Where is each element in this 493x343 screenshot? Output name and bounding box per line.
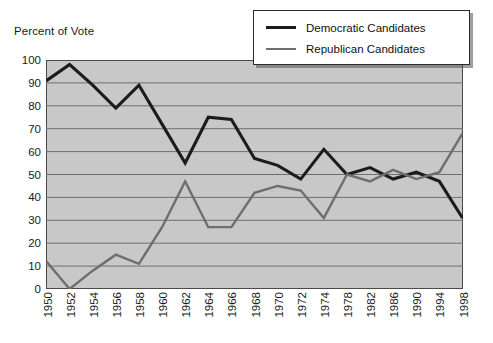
y-tick-label: 30 xyxy=(28,214,41,226)
legend-label-democratic: Democratic Candidates xyxy=(306,22,426,34)
y-tick-label: 100 xyxy=(22,54,41,66)
chart-container: Percent of Vote 0102030405060708090100 1… xyxy=(0,0,493,343)
series-line-democratic xyxy=(47,65,463,218)
x-tick-label: 1958 xyxy=(134,292,146,318)
legend-item-republican: Republican Candidates xyxy=(254,38,469,59)
y-tick-label: 50 xyxy=(28,169,41,181)
x-tick-label: 1978 xyxy=(342,292,354,318)
x-tick-label: 1956 xyxy=(111,292,123,318)
y-tick-label: 20 xyxy=(28,237,41,249)
x-tick-label: 1966 xyxy=(226,292,238,318)
x-tick-label: 1990 xyxy=(411,292,423,318)
legend-label-republican: Republican Candidates xyxy=(306,43,425,55)
y-tick-label: 10 xyxy=(28,260,41,272)
y-axis-title: Percent of Vote xyxy=(14,25,94,37)
x-axis-tick-labels: 1950195219541956195819601962196419661968… xyxy=(46,292,463,342)
x-tick-label: 1968 xyxy=(250,292,262,318)
x-tick-label: 1950 xyxy=(42,292,54,318)
x-tick-label: 1964 xyxy=(203,292,215,318)
plot-area xyxy=(46,60,463,289)
x-tick-label: 1982 xyxy=(365,292,377,318)
x-tick-label: 1994 xyxy=(434,292,446,318)
x-tick-label: 1952 xyxy=(65,292,77,318)
x-tick-label: 1986 xyxy=(388,292,400,318)
chart-legend: Democratic Candidates Republican Candida… xyxy=(253,10,470,65)
x-tick-label: 1972 xyxy=(296,292,308,318)
y-tick-label: 60 xyxy=(28,146,41,158)
x-tick-label: 1954 xyxy=(88,292,100,318)
y-tick-label: 40 xyxy=(28,191,41,203)
y-tick-label: 90 xyxy=(28,77,41,89)
legend-swatch-democratic xyxy=(266,26,296,29)
legend-swatch-republican xyxy=(266,48,296,50)
y-tick-label: 0 xyxy=(35,283,41,295)
legend-item-democratic: Democratic Candidates xyxy=(254,17,469,38)
gridlines xyxy=(46,83,463,266)
y-tick-label: 80 xyxy=(28,100,41,112)
x-tick-label: 1970 xyxy=(273,292,285,318)
plot-svg xyxy=(46,60,463,289)
x-tick-label: 1998 xyxy=(458,292,470,318)
x-tick-label: 1974 xyxy=(319,292,331,318)
y-tick-label: 70 xyxy=(28,123,41,135)
x-tick-label: 1962 xyxy=(180,292,192,318)
x-tick-label: 1960 xyxy=(157,292,169,318)
y-axis-tick-labels: 0102030405060708090100 xyxy=(0,54,44,290)
